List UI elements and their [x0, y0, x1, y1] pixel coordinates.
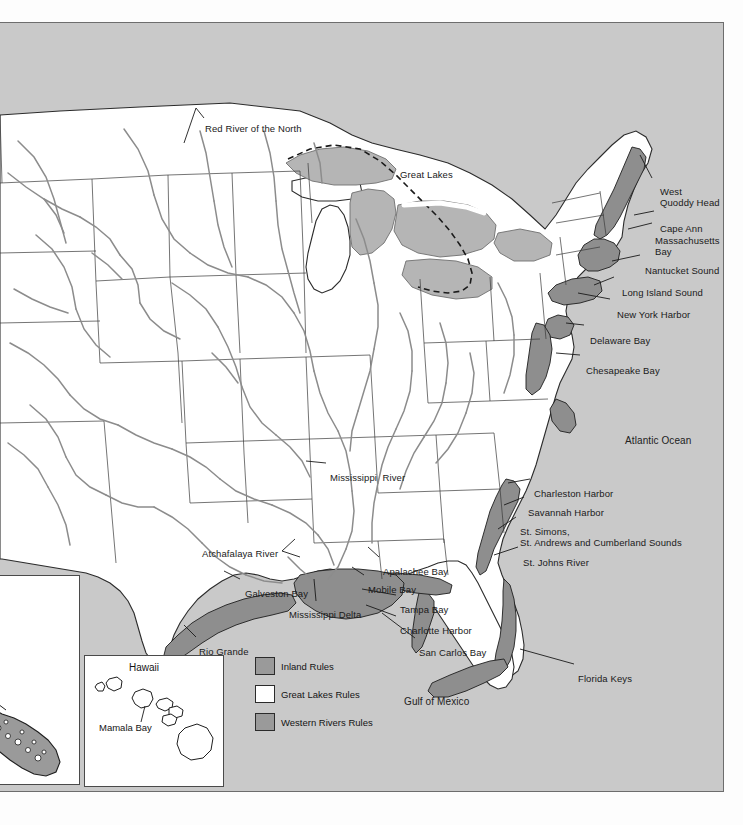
charleston-harbor-label: Charleston Harbor: [534, 488, 613, 500]
galveston-bay-label: Galveston Bay: [245, 588, 308, 600]
legend-label-western-rivers: Western Rivers Rules: [281, 717, 373, 728]
delaware-bay-label: Delaware Bay: [590, 335, 650, 347]
charlotte-harbor-label: Charlotte Harbor: [400, 625, 472, 637]
red-river-of-the-north-label: Red River of the North: [205, 123, 302, 135]
mississippi-delta-label: Mississippi Delta: [289, 609, 361, 621]
cape-ann-label: Cape Ann: [660, 223, 703, 235]
hawaii-inset: Hawaii Mamala Bay: [84, 655, 224, 787]
apalachee-bay-label: Apalachee Bay: [383, 566, 448, 578]
nantucket-sound-label: Nantucket Sound: [645, 265, 719, 277]
mobile-bay-label: Mobile Bay: [368, 584, 416, 596]
mississippi-river-label: Mississippi River: [330, 472, 405, 484]
legend-inland-rules: Inland Rules: [255, 652, 430, 680]
st-johns-river-label: St. Johns River: [523, 557, 589, 569]
legend-great-lakes-rules: Great Lakes Rules: [255, 680, 430, 708]
legend-label-great-lakes: Great Lakes Rules: [281, 689, 360, 700]
legend-western-rivers-rules: Western Rivers Rules: [255, 708, 430, 736]
atchafalaya-river-label: Atchafalaya River: [202, 548, 278, 560]
hawaii-inset-title: Hawaii: [129, 662, 159, 673]
new-york-harbor-label: New York Harbor: [617, 309, 690, 321]
florida-keys-label: Florida Keys: [578, 673, 632, 685]
alaska-inset-graphic: [0, 576, 79, 784]
alaska-inset: cer: [0, 575, 80, 785]
tampa-bay-label: Tampa Bay: [400, 604, 448, 616]
chesapeake-bay-label: Chesapeake Bay: [586, 365, 660, 377]
legend-swatch-inland-icon: [255, 657, 275, 675]
west-quoddy-head-label: West Quoddy Head: [660, 186, 720, 208]
hawaii-inset-graphic: [85, 656, 223, 786]
atlantic-ocean-label: Atlantic Ocean: [625, 435, 691, 447]
mamala-bay-label: Mamala Bay: [99, 722, 152, 733]
long-island-sound-label: Long Island Sound: [622, 287, 703, 299]
savannah-harbor-label: Savannah Harbor: [528, 507, 604, 519]
legend-label-inland: Inland Rules: [281, 661, 334, 672]
legend-swatch-western-rivers-icon: [255, 713, 275, 731]
legend-swatch-great-lakes-icon: [255, 685, 275, 703]
georgia-sounds-label: St. Simons, St. Andrews and Cumberland S…: [520, 526, 682, 548]
map-page: Atlantic Ocean Gulf of Mexico Great Lake…: [0, 0, 743, 825]
map-legend: Inland Rules Great Lakes Rules Western R…: [255, 652, 430, 736]
great-lakes-label: Great Lakes: [400, 169, 453, 181]
massachusetts-bay-label: Massachusetts Bay: [655, 235, 720, 257]
